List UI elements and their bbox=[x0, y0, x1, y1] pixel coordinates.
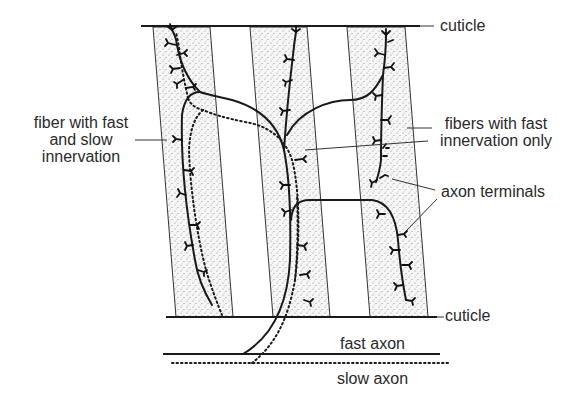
label-fibers-fast-only-line2: innervation only bbox=[432, 132, 560, 149]
label-slow-axon: slow axon bbox=[337, 370, 408, 387]
label-fiber-fast-slow: fiber with fast and slow innervation bbox=[26, 114, 136, 165]
label-axon-terminals: axon terminals bbox=[441, 183, 545, 200]
label-fiber-fast-slow-line1: fiber with fast bbox=[26, 114, 136, 131]
label-fibers-fast-only: fibers with fast innervation only bbox=[432, 115, 560, 149]
muscle-innervation-diagram bbox=[0, 0, 581, 404]
label-fibers-fast-only-line1: fibers with fast bbox=[432, 115, 560, 132]
label-cuticle-bottom: cuticle bbox=[445, 307, 490, 324]
label-fast-axon: fast axon bbox=[340, 335, 405, 352]
muscle-fiber-1 bbox=[153, 27, 233, 317]
muscle-fiber-3 bbox=[347, 27, 428, 317]
label-fiber-fast-slow-line3: innervation bbox=[26, 148, 136, 165]
muscle-fiber-2 bbox=[250, 27, 330, 317]
label-fiber-fast-slow-line2: and slow bbox=[26, 131, 136, 148]
label-cuticle-top: cuticle bbox=[440, 17, 485, 34]
